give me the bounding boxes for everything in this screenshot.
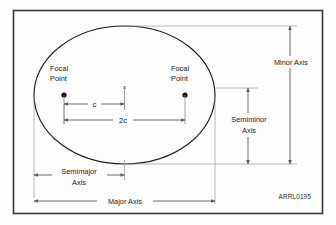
- minor-axis-label: Minor Axis: [274, 58, 308, 67]
- focal-point-left-label-line1: Focal: [50, 64, 68, 73]
- focal-point-left-label-line2: Point: [50, 74, 67, 83]
- semimajor-axis-label-line1: Semimajor: [61, 167, 97, 176]
- dimension-c-label: c: [93, 100, 97, 109]
- major-axis-label: Major Axis: [108, 197, 142, 206]
- ellipse-diagram-figure: x Focal Point Focal Point c: [0, 0, 336, 225]
- focal-point-left-label: Focal Point: [50, 64, 68, 83]
- focal-point-right-label: Focal Point: [171, 64, 189, 83]
- semiminor-axis-label-line1: Semiminor: [231, 115, 267, 124]
- semiminor-axis-label-line2: Axis: [242, 126, 256, 135]
- ellipse-diagram-canvas: x Focal Point Focal Point c: [0, 0, 336, 225]
- semimajor-axis-label-line2: Axis: [72, 178, 86, 187]
- focal-point-right-label-line1: Focal: [171, 64, 189, 73]
- figure-credit-label: ARRL0195: [279, 193, 312, 200]
- dimension-2c-label: 2c: [119, 116, 127, 125]
- focal-point-right-label-line2: Point: [171, 74, 188, 83]
